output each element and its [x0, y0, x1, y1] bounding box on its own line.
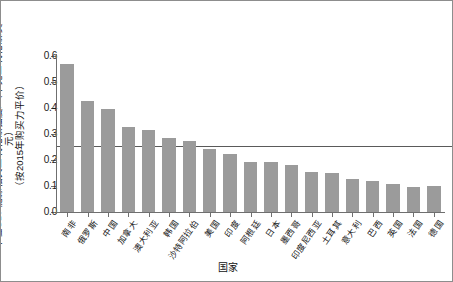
x-tick-mark	[210, 213, 211, 217]
x-axis-label: 阿根廷	[239, 219, 262, 246]
x-axis-label: 日本	[265, 219, 283, 239]
x-axis-label: 美国	[203, 219, 221, 239]
x-tick-mark	[128, 213, 129, 217]
x-tick-mark	[332, 213, 333, 217]
bar	[264, 162, 277, 212]
y-tick-label: 0.2	[11, 155, 57, 165]
y-tick-label: 0.5	[11, 77, 57, 87]
x-tick-mark	[230, 213, 231, 217]
x-tick-mark	[189, 213, 190, 217]
x-tick-mark	[291, 213, 292, 217]
x-tick-mark	[271, 213, 272, 217]
x-tick-mark	[373, 213, 374, 217]
x-axis-label: 意大利	[341, 219, 364, 246]
bar	[346, 179, 359, 212]
x-tick-mark	[434, 213, 435, 217]
x-tick-mark	[88, 213, 89, 217]
x-axis-label: 巴西	[366, 219, 384, 239]
x-tick-mark	[413, 213, 414, 217]
bar	[325, 173, 338, 212]
bar	[142, 130, 155, 212]
bar	[285, 165, 298, 212]
bar	[101, 109, 114, 212]
y-axis-ticks: 0.00.10.20.30.40.50.6	[1, 1, 57, 282]
y-tick-label: 0.1	[11, 181, 57, 191]
bar	[427, 186, 440, 212]
bar	[203, 149, 216, 212]
x-tick-mark	[393, 213, 394, 217]
bar	[183, 141, 196, 212]
x-axis-label: 英国	[387, 219, 405, 239]
bar	[244, 162, 257, 212]
x-axis-label: 南非	[61, 219, 79, 239]
y-tick-label: 0.3	[11, 129, 57, 139]
x-tick-mark	[108, 213, 109, 217]
x-axis-label: 中国	[102, 219, 120, 239]
bar	[305, 172, 318, 212]
x-axis-label: 印度	[224, 219, 242, 239]
bar	[162, 138, 175, 212]
x-tick-mark	[352, 213, 353, 217]
plot-area	[57, 56, 444, 212]
bar	[81, 101, 94, 212]
x-axis-title: 国家	[1, 259, 453, 274]
x-axis-label: 俄罗斯	[76, 219, 99, 246]
y-tick-label: 0.4	[11, 103, 57, 113]
chart-figure: 单位GDP能源相关二氧化碳强度/（千克二氧化碳/美元） （按2015年购买力平价…	[0, 0, 453, 282]
x-tick-mark	[251, 213, 252, 217]
x-axis-label: 土耳其	[320, 219, 343, 246]
x-tick-mark	[149, 213, 150, 217]
x-axis-label: 韩国	[163, 219, 181, 239]
x-axis-label: 法国	[407, 219, 425, 239]
x-axis-label: 德国	[427, 219, 445, 239]
x-tick-mark	[67, 213, 68, 217]
bar	[122, 127, 135, 212]
reference-line	[57, 146, 444, 147]
bar	[407, 187, 420, 212]
x-tick-mark	[169, 213, 170, 217]
bar	[223, 154, 236, 212]
x-tick-mark	[312, 213, 313, 217]
reference-line-extension	[444, 146, 452, 147]
bar	[60, 64, 73, 212]
bar	[366, 181, 379, 212]
y-tick-label: 0.0	[11, 207, 57, 217]
y-tick-label: 0.6	[11, 51, 57, 61]
bar	[386, 184, 399, 212]
